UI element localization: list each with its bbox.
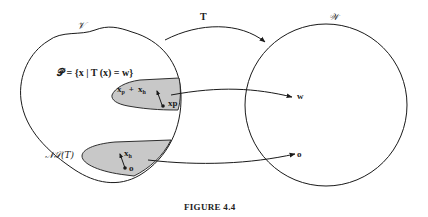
point-w-label: w: [297, 91, 304, 101]
solution-region-formula: xp+xh: [117, 84, 146, 95]
transformation-label: T: [200, 11, 207, 22]
point-xp: [161, 104, 165, 108]
point-o-codomain-label: o: [297, 149, 302, 159]
figure-caption: FIGURE 4.4: [184, 202, 236, 212]
point-xp-label: xp: [168, 98, 178, 108]
codomain-set-boundary: [245, 24, 407, 186]
linear-transformation-diagram: 𝒱 T 𝒲 𝒫 = {x | T (x) = w} xp+xh xp 𝒩𝒮(T)…: [0, 0, 428, 217]
point-o-domain-label: o: [129, 163, 134, 173]
codomain-set-label: 𝒲: [329, 12, 341, 22]
domain-set-label: 𝒱: [77, 20, 89, 31]
arrow-xp-to-w: [171, 89, 292, 97]
point-o-domain: [123, 166, 127, 170]
arrow-null-to-o: [148, 154, 295, 163]
null-space-region: [82, 140, 171, 176]
transformation-arrow: [165, 27, 265, 42]
solution-set-definition: 𝒫 = {x | T (x) = w}: [56, 67, 133, 79]
null-space-label: 𝒩𝒮(T): [45, 150, 75, 160]
